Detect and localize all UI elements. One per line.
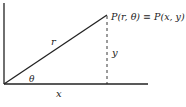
x-label: x — [56, 88, 62, 99]
polar-coordinates-diagram: r θ y x P(r, θ) ≡ P(x, y) — [0, 0, 186, 107]
radius-label: r — [51, 36, 57, 47]
point-label: P(r, θ) ≡ P(x, y) — [110, 11, 185, 22]
radius-line — [4, 15, 107, 84]
angle-label: θ — [29, 74, 35, 84]
y-label: y — [111, 47, 118, 58]
